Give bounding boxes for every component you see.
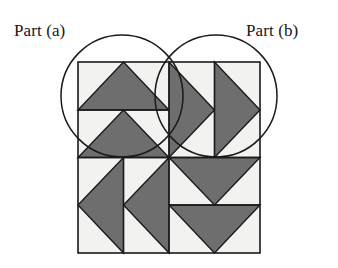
figure-container: Part (a) Part (b)	[0, 0, 338, 268]
label-part-b: Part (b)	[246, 21, 298, 40]
geometry-figure: Part (a) Part (b)	[0, 0, 338, 268]
label-part-a: Part (a)	[14, 21, 65, 40]
